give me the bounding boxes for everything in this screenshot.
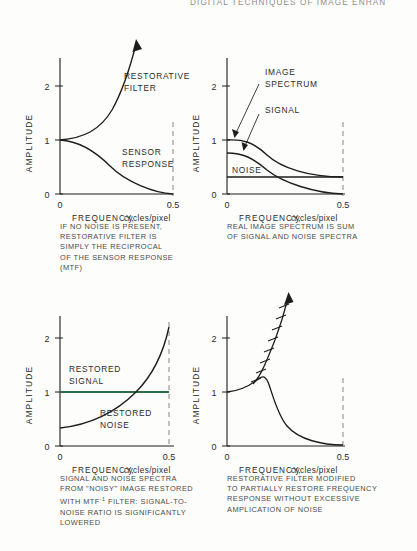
chart-4: 2 1 0 0 0.5 AMPLITUDE FREQUENCY, cycles/… — [205, 288, 410, 488]
image-spectrum-leader — [236, 84, 259, 133]
signal-leader — [245, 114, 259, 146]
y-axis-label-1: AMPLITUDE — [24, 114, 34, 173]
y-tick-label-0: 0 — [211, 190, 216, 200]
caption-3-line-1: SIGNAL AND NOISE SPECTRA — [60, 474, 225, 484]
chart-2: 2 1 0 0 0.5 AMPLITUDE FREQUENCY, cycles/… — [205, 22, 410, 222]
original-filter-arrowhead — [284, 292, 294, 305]
caption-4-line-2: TO PARTIALLY RESTORE FREQUENCY — [227, 484, 417, 494]
caption-2-line-2: OF SIGNAL AND NOISE SPECTRA — [227, 232, 417, 242]
noise-label: NOISE — [232, 165, 262, 175]
caption-1-line-5: (MTF) — [60, 263, 225, 273]
panel-4: 2 1 0 0 0.5 AMPLITUDE FREQUENCY, cycles/… — [205, 288, 410, 546]
chart-1: 2 1 0 0 0.5 AMPLITUDE FREQUENCY, cycles/… — [14, 22, 204, 222]
caption-4-line-1: RESTORATIVE FILTER MODIFIED — [227, 474, 417, 484]
caption-1-line-3: SIMPLY THE RECIPROCAL — [60, 242, 225, 252]
caption-4-line-4: AMPLICATION OF NOISE — [227, 505, 417, 515]
x-tick-label-nyquist: 0.5 — [167, 200, 180, 210]
y-tick-label-1: 1 — [44, 388, 49, 398]
caption-4-line-3: RESPONSE WITHOUT EXCESSIVE — [227, 494, 417, 504]
original-filter-hatched-curve — [251, 292, 294, 384]
y-tick-label-0: 0 — [44, 442, 49, 452]
x-tick-label-nyquist: 0.5 — [163, 452, 176, 462]
restorative-filter-arrowhead — [133, 39, 143, 52]
caption-1-line-2: RESTORATIVE FILTER IS — [60, 232, 225, 242]
restorative-filter-label-line2: FILTER — [124, 83, 156, 93]
x-tick-label-0: 0 — [57, 452, 62, 462]
y-tick-label-1: 1 — [211, 136, 216, 146]
caption-4: RESTORATIVE FILTER MODIFIED TO PARTIALLY… — [227, 474, 417, 515]
image-spectrum-label-line1: IMAGE — [265, 67, 296, 77]
caption-3-line-4: NOISE RATIO IS SIGNIFICANTLY — [60, 508, 225, 518]
restorative-filter-label-line1: RESTORATIVE — [124, 71, 190, 81]
restored-noise-label-line2: NOISE — [100, 420, 130, 430]
y-tick-label-2: 2 — [211, 334, 216, 344]
panel-3: 2 1 0 0 0.5 AMPLITUDE FREQUENCY, cycles/… — [14, 288, 204, 546]
caption-3-line-2: FROM "NOISY" IMAGE RESTORED — [60, 484, 225, 494]
caption-3: SIGNAL AND NOISE SPECTRA FROM "NOISY" IM… — [60, 474, 225, 528]
x-tick-label-nyquist: 0.5 — [337, 200, 350, 210]
caption-2-line-1: REAL IMAGE SPECTRUM IS SUM — [227, 222, 417, 232]
x-tick-label-0: 0 — [224, 452, 229, 462]
restored-noise-label-line1: RESTORED — [100, 408, 152, 418]
y-tick-label-1: 1 — [211, 388, 216, 398]
running-head: DIGITAL TECHNIQUES OF IMAGE ENHAN — [190, 0, 417, 7]
caption-1: IF NO NOISE IS PRESENT, RESTORATIVE FILT… — [60, 222, 225, 273]
modified-filter-curve — [227, 377, 343, 445]
y-axis-label-4: AMPLITUDE — [191, 366, 201, 425]
caption-3-line-5: LOWERED — [60, 518, 225, 528]
y-axis-label-3: AMPLITUDE — [24, 366, 34, 425]
image-spectrum-label-line2: SPECTRUM — [265, 79, 318, 89]
restored-signal-label-line1: RESTORED — [69, 364, 121, 374]
caption-3-mtf-suffix: FILTER: SIGNAL-TO- — [105, 498, 187, 507]
figure-page: DIGITAL TECHNIQUES OF IMAGE ENHAN 2 — [0, 0, 417, 551]
caption-1-line-4: OF THE SENSOR RESPONSE — [60, 253, 225, 263]
chart-3: 2 1 0 0 0.5 AMPLITUDE FREQUENCY, cycles/… — [14, 288, 204, 488]
image-spectrum-arrowhead — [232, 129, 239, 138]
y-tick-label-2: 2 — [211, 82, 216, 92]
restored-signal-label-line2: SIGNAL — [69, 376, 104, 386]
sensor-response-label-line1: SENSOR — [122, 147, 162, 157]
caption-1-line-1: IF NO NOISE IS PRESENT, — [60, 222, 225, 232]
y-tick-label-0: 0 — [44, 190, 49, 200]
panel-1: 2 1 0 0 0.5 AMPLITUDE FREQUENCY, cycles/… — [14, 22, 204, 284]
x-tick-label-0: 0 — [57, 200, 62, 210]
panel-2: 2 1 0 0 0.5 AMPLITUDE FREQUENCY, cycles/… — [205, 22, 410, 284]
y-axis-label-2: AMPLITUDE — [191, 114, 201, 173]
sensor-response-label-line2: RESPONSE — [122, 159, 174, 169]
y-tick-label-1: 1 — [44, 136, 49, 146]
caption-3-line-3: WITH MTF-1 FILTER: SIGNAL-TO- — [60, 494, 225, 508]
caption-2: REAL IMAGE SPECTRUM IS SUM OF SIGNAL AND… — [227, 222, 417, 242]
y-tick-label-0: 0 — [211, 442, 216, 452]
x-tick-label-nyquist: 0.5 — [337, 452, 350, 462]
signal-label: SIGNAL — [265, 105, 300, 115]
x-tick-label-0: 0 — [224, 200, 229, 210]
caption-3-mtf-prefix: WITH MTF — [60, 498, 100, 507]
y-tick-label-2: 2 — [44, 82, 49, 92]
signal-arrowhead — [242, 142, 249, 151]
y-tick-label-2: 2 — [44, 334, 49, 344]
